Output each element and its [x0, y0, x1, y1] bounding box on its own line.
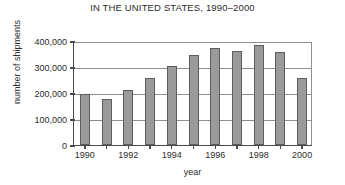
x-axis-tick-label: 1992 [118, 150, 138, 160]
y-axis-tick [70, 93, 75, 94]
y-axis-tick [70, 145, 75, 146]
bar [232, 51, 242, 145]
bar-chart-figure: IN THE UNITED STATES, 1990–2000 number o… [0, 0, 345, 185]
x-axis-tick [280, 145, 281, 149]
x-axis-tick [193, 145, 194, 149]
x-axis-tick-label: 1996 [205, 150, 225, 160]
bar [80, 94, 90, 145]
x-axis-tick-label: 2000 [292, 150, 312, 160]
x-axis-tick-label: 1994 [162, 150, 182, 160]
bar [167, 66, 177, 145]
y-axis-label: number of shipments [12, 2, 22, 122]
y-axis-tick-label: 100,000 [34, 115, 67, 125]
y-axis-tick-label: 0 [62, 141, 67, 151]
x-axis-tick [106, 145, 107, 149]
bar [254, 45, 264, 145]
x-axis-label: year [73, 167, 312, 177]
x-axis-tick [128, 145, 129, 149]
x-axis-tick-label: 1990 [75, 150, 95, 160]
x-axis-tick [215, 145, 216, 149]
x-axis-tick [84, 145, 85, 149]
y-axis-tick [70, 119, 75, 120]
bar [102, 99, 112, 145]
bar [275, 52, 285, 145]
x-axis-tick [149, 145, 150, 149]
y-axis-tick-label: 200,000 [34, 89, 67, 99]
y-axis-tick-label: 300,000 [34, 63, 67, 73]
bar [145, 78, 155, 145]
bar [210, 48, 220, 145]
bar [297, 78, 307, 145]
x-axis-tick [236, 145, 237, 149]
chart-title: IN THE UNITED STATES, 1990–2000 [0, 2, 345, 13]
gridline [74, 42, 312, 43]
x-axis-tick [301, 145, 302, 149]
y-axis-tick-label: 400,000 [34, 37, 67, 47]
y-axis-tick [70, 67, 75, 68]
bar [189, 55, 199, 145]
bar [123, 90, 133, 145]
x-axis-tick [258, 145, 259, 149]
x-axis-tick-label: 1998 [249, 150, 269, 160]
y-axis-tick [70, 41, 75, 42]
x-axis-tick [171, 145, 172, 149]
plot-area: 0100,000200,000300,000400,000 1990199219… [73, 42, 312, 146]
